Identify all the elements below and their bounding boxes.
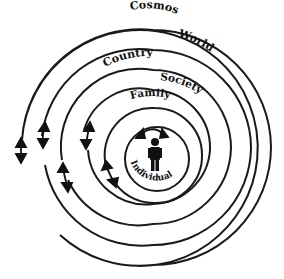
label-cosmos: Cosmos [129, 0, 181, 17]
spheres-diagram: Cosmos World Country Society Family Indi… [0, 0, 284, 279]
label-country: Country [101, 46, 154, 70]
arrow-family-individual [102, 161, 118, 187]
arrow-cosmos-world [16, 138, 26, 163]
arrow-country-society [58, 163, 72, 192]
arrow-society-family [81, 122, 94, 149]
ring-cosmos [22, 29, 271, 266]
label-family: Family [129, 86, 173, 101]
person-icon [148, 138, 162, 171]
ring-world [42, 49, 251, 246]
label-world: World [176, 27, 217, 55]
arrow-world-country [38, 122, 49, 148]
